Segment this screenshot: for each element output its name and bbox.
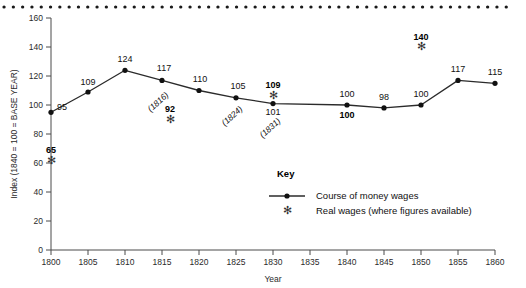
x-tick-1845: 1845 <box>375 257 394 267</box>
x-tick-1855: 1855 <box>449 257 468 267</box>
label-real-1816: 92 <box>165 104 175 114</box>
x-tick-1815: 1815 <box>153 257 172 267</box>
x-tick-1835: 1835 <box>301 257 320 267</box>
legend-title: Key <box>277 168 295 179</box>
year-note-1824: (1824) <box>220 104 245 128</box>
y-tick-100: 100 <box>29 100 43 110</box>
label-real-1840: 100 <box>339 110 354 120</box>
y-tick-60: 60 <box>34 158 44 168</box>
x-axis-tick-labels: 1800 1805 1810 1815 1820 1825 1830 1835 … <box>42 257 505 267</box>
x-tick-1825: 1825 <box>227 257 246 267</box>
x-tick-1820: 1820 <box>190 257 209 267</box>
label-money-1825: 105 <box>230 81 245 91</box>
y-tick-20: 20 <box>34 216 44 226</box>
x-tick-1805: 1805 <box>79 257 98 267</box>
real-wages-point-labels: 65 92 109 100 140 <box>46 32 429 155</box>
x-axis <box>51 250 495 255</box>
y-axis <box>46 18 51 250</box>
label-money-1800: 95 <box>57 102 67 112</box>
label-money-1850: 100 <box>413 89 428 99</box>
chart-canvas: 160 140 120 100 80 60 40 20 0 Index (184… <box>0 0 526 288</box>
label-real-1800: 65 <box>46 145 56 155</box>
x-axis-title: Year <box>264 274 281 284</box>
y-tick-120: 120 <box>29 71 43 81</box>
y-axis-tick-labels: 160 140 120 100 80 60 40 20 0 <box>29 13 43 255</box>
label-money-1840: 100 <box>339 89 354 99</box>
y-tick-80: 80 <box>34 129 44 139</box>
label-money-1815: 117 <box>157 63 171 73</box>
y-axis-title: Index (1840 = 100 = BASE YEAR) <box>9 69 19 198</box>
label-real-1831: 109 <box>265 80 280 90</box>
real-wages-series: ✻ ✻ ✻ ✻ <box>47 40 426 166</box>
chart-legend: Key Course of money wages ✻ Real wages (… <box>269 168 472 216</box>
x-tick-1830: 1830 <box>264 257 283 267</box>
legend-label-real-wages: Real wages (where figures available) <box>316 205 472 216</box>
x-tick-1810: 1810 <box>116 257 135 267</box>
x-tick-1800: 1800 <box>42 257 61 267</box>
y-tick-40: 40 <box>34 187 44 197</box>
label-money-1820: 110 <box>193 74 207 84</box>
legend-label-money-wages: Course of money wages <box>316 190 419 201</box>
y-tick-140: 140 <box>29 42 43 52</box>
legend-item-real-wages: ✻ Real wages (where figures available) <box>283 204 472 216</box>
x-tick-1840: 1840 <box>338 257 357 267</box>
label-real-1850: 140 <box>413 32 428 42</box>
asterisk-marker-1816: ✻ <box>166 113 175 125</box>
y-tick-160: 160 <box>29 13 43 23</box>
x-tick-1860: 1860 <box>486 257 505 267</box>
label-money-1810: 124 <box>117 54 132 64</box>
label-money-1805: 109 <box>80 77 95 87</box>
legend-asterisk-marker: ✻ <box>283 204 292 216</box>
legend-dot-marker <box>284 193 289 198</box>
label-money-1845: 98 <box>379 92 389 102</box>
wages-index-line-chart: 160 140 120 100 80 60 40 20 0 Index (184… <box>0 0 526 288</box>
label-money-1860: 115 <box>488 67 502 77</box>
year-note-1831: (1831) <box>258 116 283 140</box>
x-tick-1850: 1850 <box>412 257 431 267</box>
asterisk-marker-1831: ✻ <box>269 89 278 101</box>
legend-item-money-wages: Course of money wages <box>269 190 419 201</box>
label-money-1855: 117 <box>451 64 465 74</box>
label-money-1830: 101 <box>265 107 280 117</box>
y-tick-0: 0 <box>38 245 43 255</box>
asterisk-marker-1800: ✻ <box>47 154 56 166</box>
